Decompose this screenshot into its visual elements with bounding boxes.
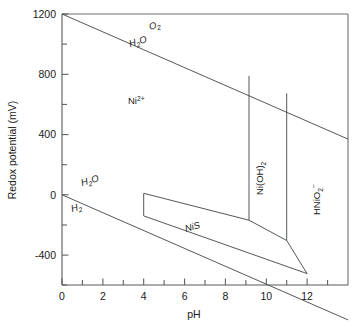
ni-oh-2-label-text: Ni(OH) bbox=[254, 165, 265, 195]
ni-oh-2-label-sub: 2 bbox=[260, 161, 267, 165]
hnio2-label: HNiO2− bbox=[310, 184, 324, 215]
y-tick-label: -400 bbox=[35, 249, 56, 261]
svg-text:HNiO2−: HNiO2− bbox=[310, 184, 324, 215]
h2o-lower-o: O bbox=[90, 172, 101, 185]
y-tick-label: 400 bbox=[38, 128, 56, 140]
svg-text:Ni(OH)2: Ni(OH)2 bbox=[254, 161, 267, 195]
h2o-lower-label: H2O bbox=[80, 172, 101, 189]
nis-label-text: NiS bbox=[184, 219, 202, 234]
y-axis-ticks bbox=[62, 14, 69, 285]
o2-h2o-line bbox=[62, 14, 348, 139]
pourbaix-diagram-plot: 1200 800 400 0 -400 0 2 4 6 8 10 12 pH R… bbox=[0, 0, 363, 325]
x-tick-labels: 0 2 4 6 8 10 12 bbox=[59, 290, 313, 302]
h2o-upper-label: H2O bbox=[128, 33, 149, 50]
svg-text:H2O: H2O bbox=[80, 172, 101, 189]
x-axis-ticks bbox=[62, 279, 328, 286]
hnio2-label-sub: 2 bbox=[317, 188, 324, 192]
nis-upper-boundary bbox=[144, 193, 307, 273]
h2-label: H2 bbox=[70, 200, 84, 215]
x-tick-label: 0 bbox=[59, 290, 65, 302]
x-tick-label: 2 bbox=[100, 290, 106, 302]
svg-text:H2: H2 bbox=[70, 200, 84, 215]
plot-frame bbox=[62, 14, 348, 285]
o2-label: O2 bbox=[148, 18, 162, 33]
y-tick-label: 0 bbox=[50, 189, 56, 201]
x-tick-label: 8 bbox=[222, 290, 228, 302]
ni2plus-label: Ni2+ bbox=[128, 95, 145, 106]
nis-label: NiS bbox=[184, 219, 202, 234]
svg-text:O2: O2 bbox=[148, 18, 162, 33]
nis-lower-boundary bbox=[144, 216, 307, 274]
svg-text:H2O: H2O bbox=[128, 33, 149, 50]
phase-boundaries bbox=[62, 14, 348, 320]
h2o-upper-o: O bbox=[138, 33, 149, 46]
x-tick-label: 6 bbox=[182, 290, 188, 302]
y-tick-label: 1200 bbox=[33, 8, 57, 20]
y-tick-labels: 1200 800 400 0 -400 bbox=[33, 8, 57, 261]
x-tick-label: 4 bbox=[141, 290, 147, 302]
h2-label-sub: 2 bbox=[77, 206, 84, 214]
ni2plus-label-text: Ni bbox=[128, 95, 137, 106]
o2-label-sub: 2 bbox=[155, 23, 162, 31]
hnio2-label-sup: − bbox=[310, 184, 317, 188]
pourbaix-diagram-figure: 1200 800 400 0 -400 0 2 4 6 8 10 12 pH R… bbox=[0, 0, 363, 325]
ni2plus-label-sup: 2+ bbox=[137, 95, 145, 102]
x-tick-label: 10 bbox=[260, 290, 272, 302]
hnio2-label-text: HNiO bbox=[311, 192, 322, 215]
x-axis-title: pH bbox=[187, 308, 200, 320]
svg-text:Ni2+: Ni2+ bbox=[128, 95, 145, 106]
y-tick-label: 800 bbox=[38, 68, 56, 80]
ni-oh-2-label: Ni(OH)2 bbox=[254, 161, 267, 195]
species-labels: O2 H2O H2O H2 bbox=[70, 18, 324, 234]
y-axis-title: Redox potential (mV) bbox=[6, 101, 18, 200]
